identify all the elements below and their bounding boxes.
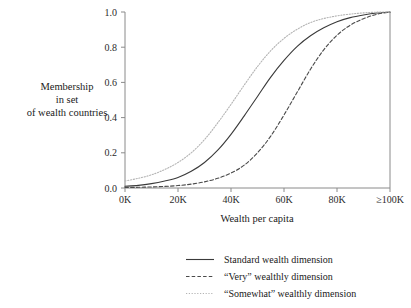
y-axis-label: Membershipin setof wealth countries <box>27 81 107 118</box>
x-axis-ticks: 0K20K40K60K80K≥100K <box>119 188 405 205</box>
axis-frame <box>125 12 390 188</box>
wealth-membership-line-chart: Membershipin setof wealth countries 0.00… <box>0 0 411 308</box>
y-tick-label: 1.0 <box>105 7 118 18</box>
chart-legend: Standard wealth dimension“Very” wealthly… <box>186 254 356 299</box>
y-axis-label-line: in set <box>56 94 79 105</box>
y-tick-label: 0.0 <box>105 183 118 194</box>
chart-container: Membershipin setof wealth countries 0.00… <box>0 0 411 308</box>
y-tick-label: 0.4 <box>105 112 118 123</box>
y-axis-label-line: Membership <box>40 81 93 92</box>
y-axis-ticks: 0.00.20.40.60.81.0 <box>105 7 126 194</box>
x-tick-label: 0K <box>119 194 132 205</box>
y-tick-label: 0.2 <box>105 147 118 158</box>
y-axis-label-line: of wealth countries <box>27 107 107 118</box>
x-tick-label: 60K <box>275 194 293 205</box>
series-line <box>125 12 390 186</box>
legend-item-label: “Very” wealthly dimension <box>224 271 333 282</box>
series-lines <box>125 12 390 187</box>
x-tick-label: 80K <box>328 194 346 205</box>
y-tick-label: 0.6 <box>105 77 118 88</box>
x-tick-label: 20K <box>169 194 187 205</box>
y-tick-label: 0.8 <box>105 42 118 53</box>
plot-axes <box>125 12 390 188</box>
x-axis-title: Wealth per capita <box>220 213 294 224</box>
x-tick-label: 40K <box>222 194 240 205</box>
legend-item-label: “Somewhat” wealthly dimension <box>224 288 356 299</box>
legend-item-label: Standard wealth dimension <box>224 254 333 265</box>
x-tick-label: ≥100K <box>376 194 404 205</box>
series-line <box>125 12 390 187</box>
